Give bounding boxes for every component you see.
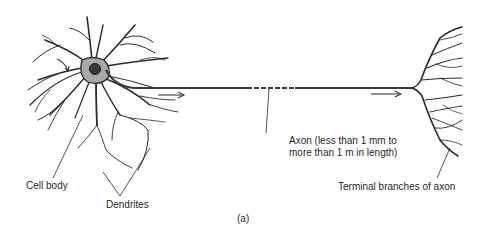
neuron-diagram bbox=[0, 0, 490, 241]
signal-arrow-axon-2 bbox=[371, 91, 401, 97]
axon-label-line-1: Axon (less than 1 mm to bbox=[289, 135, 397, 147]
dendrites-label: Dendrites bbox=[106, 199, 149, 211]
nucleus bbox=[90, 64, 101, 75]
dendrites bbox=[28, 17, 178, 170]
cell-body bbox=[81, 58, 109, 84]
terminal-branches bbox=[412, 27, 462, 156]
cell-body-leader bbox=[53, 115, 83, 178]
figure-caption: (a) bbox=[237, 213, 249, 225]
terminal-branches-label: Terminal branches of axon bbox=[338, 181, 455, 193]
dendrites-leader bbox=[103, 148, 150, 196]
cell-body-label: Cell body bbox=[26, 180, 68, 192]
axon-label-line-2: more than 1 m in length) bbox=[289, 147, 397, 159]
terminal-leader bbox=[437, 148, 450, 178]
signal-arrow-axon-1 bbox=[158, 92, 184, 98]
signal-arrow-dendrite bbox=[57, 59, 69, 71]
axon-label: Axon (less than 1 mm to more than 1 m in… bbox=[289, 135, 397, 159]
axon-leader bbox=[266, 89, 269, 133]
arrows bbox=[57, 59, 401, 98]
axon bbox=[106, 66, 412, 89]
